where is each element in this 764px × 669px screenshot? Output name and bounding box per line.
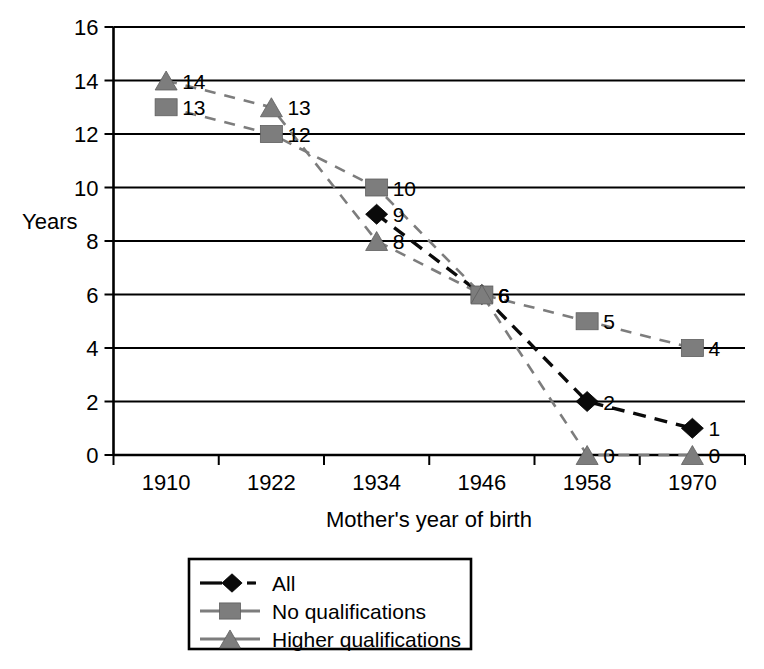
chart-figure: 0246810121416 191019221934194619581970 9… bbox=[0, 0, 764, 669]
x-tick-label: 1970 bbox=[668, 470, 717, 495]
data-point-label: 2 bbox=[603, 391, 615, 414]
y-tick-label: 4 bbox=[86, 336, 98, 361]
data-point-label: 4 bbox=[708, 337, 720, 360]
square-marker bbox=[681, 340, 703, 357]
y-tick-label: 2 bbox=[86, 390, 98, 415]
x-tick-label: 1958 bbox=[563, 470, 612, 495]
y-tick-label: 0 bbox=[86, 443, 98, 468]
y-tick-label: 6 bbox=[86, 283, 98, 308]
legend-label: Higher qualifications bbox=[272, 628, 461, 651]
y-tick-label: 10 bbox=[74, 176, 98, 201]
y-tick-label: 8 bbox=[86, 229, 98, 254]
square-marker bbox=[366, 179, 388, 196]
data-point-label: 5 bbox=[603, 310, 615, 333]
square-marker bbox=[576, 313, 598, 330]
data-point-label: 0 bbox=[708, 444, 720, 467]
data-point-label: 1 bbox=[708, 417, 720, 440]
data-point-label: 0 bbox=[603, 444, 615, 467]
data-point-label: 8 bbox=[393, 230, 405, 253]
x-tick-label: 1910 bbox=[142, 470, 191, 495]
square-marker bbox=[220, 603, 241, 619]
legend-label: All bbox=[272, 572, 295, 595]
square-marker bbox=[260, 126, 282, 143]
square-marker bbox=[155, 99, 177, 116]
x-tick-label: 1934 bbox=[352, 470, 401, 495]
data-point-label: 9 bbox=[393, 203, 405, 226]
x-axis-title: Mother's year of birth bbox=[326, 507, 532, 532]
data-point-label: 13 bbox=[287, 96, 310, 119]
legend-label: No qualifications bbox=[272, 600, 426, 623]
y-tick-label: 14 bbox=[74, 69, 98, 94]
data-point-label: 6 bbox=[498, 284, 510, 307]
data-point-label: 14 bbox=[182, 70, 206, 93]
line-chart: 0246810121416 191019221934194619581970 9… bbox=[0, 0, 764, 669]
chart-legend: AllNo qualificationsHigher qualification… bbox=[189, 559, 471, 651]
y-tick-label: 12 bbox=[74, 122, 98, 147]
data-point-label: 10 bbox=[393, 177, 416, 200]
y-tick-label: 16 bbox=[74, 15, 98, 40]
data-point-label: 12 bbox=[287, 123, 310, 146]
x-tick-label: 1922 bbox=[247, 470, 296, 495]
data-point-label: 13 bbox=[182, 96, 205, 119]
y-axis-title: Years bbox=[22, 209, 77, 234]
x-tick-label: 1946 bbox=[457, 470, 506, 495]
